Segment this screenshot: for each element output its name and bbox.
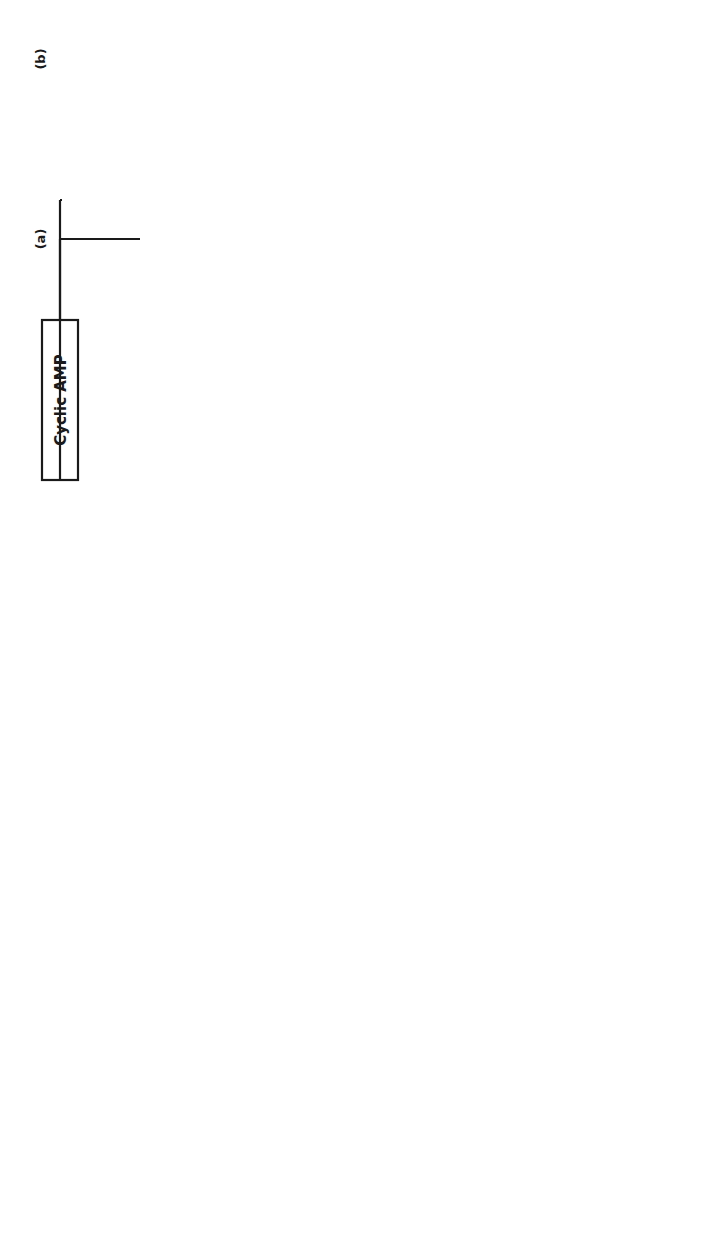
tag-a: (a): [33, 229, 48, 250]
tag-b: (b): [33, 48, 48, 69]
cyclic-amp-ab-group: Cyclic AMP (a) (b): [33, 48, 140, 480]
glycogen-metabolism-diagram: Cyclic AMP (a) (b): [0, 0, 724, 1259]
